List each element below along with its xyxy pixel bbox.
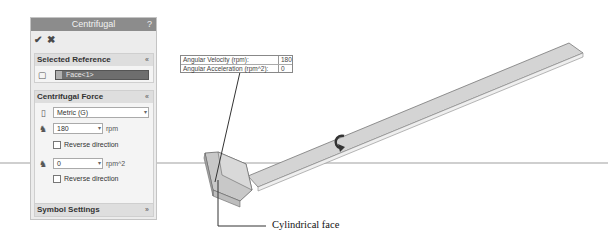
unit-system-select[interactable]: Metric (G) ▾ bbox=[53, 107, 149, 118]
centrifugal-force-header[interactable]: Centrifugal Force « bbox=[35, 91, 153, 103]
centrifugal-property-manager: Centrifugal ? ✔ ✖ Selected Reference « ▢… bbox=[30, 17, 157, 220]
expand-icon[interactable]: » bbox=[145, 204, 149, 216]
reverse-direction-label-2: Reverse direction bbox=[64, 174, 118, 183]
units-icon: ▯ bbox=[38, 108, 48, 118]
face-selection-field[interactable]: Face<1> bbox=[55, 70, 149, 80]
symbol-settings-header[interactable]: Symbol Settings » bbox=[35, 204, 153, 216]
symbol-settings-group: Symbol Settings » bbox=[34, 203, 154, 217]
cylindrical-face-caption: Cylindrical face bbox=[272, 219, 339, 230]
callout-label: Angular Acceleration (rpm^2): bbox=[181, 65, 279, 72]
unit-system-value: Metric (G) bbox=[57, 109, 88, 116]
angular-acceleration-input[interactable]: 0 ▾ bbox=[53, 158, 103, 169]
rotor-hub[interactable] bbox=[204, 152, 252, 207]
face-selection-value: Face<1> bbox=[66, 71, 94, 79]
x-icon[interactable]: ✖ bbox=[47, 34, 55, 46]
callout-row: Angular Acceleration (rpm^2): 0 bbox=[181, 64, 292, 72]
group-title: Selected Reference bbox=[37, 55, 111, 64]
selected-reference-group: Selected Reference « ▢ Face<1> bbox=[34, 53, 154, 83]
reverse-direction-label: Reverse direction bbox=[64, 140, 118, 149]
group-title: Centrifugal Force bbox=[37, 92, 103, 101]
angular-acceleration-unit: rpm^2 bbox=[106, 158, 125, 169]
callout-value: 180 bbox=[279, 56, 292, 64]
angular-acceleration-value: 0 bbox=[57, 160, 61, 167]
angular-velocity-icon: ♞ bbox=[38, 124, 48, 134]
panel-titlebar: Centrifugal ? bbox=[31, 18, 156, 31]
angular-velocity-value: 180 bbox=[57, 125, 69, 132]
callout-label: Angular Velocity (rpm): bbox=[181, 56, 279, 64]
group-title: Symbol Settings bbox=[37, 205, 100, 214]
selected-reference-header[interactable]: Selected Reference « bbox=[35, 54, 153, 66]
collapse-icon[interactable]: « bbox=[145, 91, 149, 103]
reverse-direction-checkbox[interactable] bbox=[53, 141, 61, 149]
callout-row: Angular Velocity (rpm): 180 bbox=[181, 56, 292, 64]
reverse-direction-checkbox-2[interactable] bbox=[53, 175, 61, 183]
panel-title: Centrifugal bbox=[72, 19, 116, 29]
value-callout: Angular Velocity (rpm): 180 Angular Acce… bbox=[180, 55, 293, 73]
help-button[interactable]: ? bbox=[147, 18, 152, 31]
chevron-down-icon: ▾ bbox=[144, 108, 147, 117]
angular-velocity-input[interactable]: 180 ▾ bbox=[53, 123, 103, 134]
chevron-down-icon[interactable]: ▾ bbox=[98, 159, 101, 168]
centrifugal-force-group: Centrifugal Force « ▯ Metric (G) ▾ ♞ 180… bbox=[34, 90, 154, 215]
angular-acceleration-icon: ♞ bbox=[38, 159, 48, 169]
collapse-icon[interactable]: « bbox=[145, 54, 149, 66]
angular-velocity-unit: rpm bbox=[106, 123, 118, 134]
cube-icon: ▢ bbox=[37, 70, 47, 80]
checkmark-icon[interactable]: ✔ bbox=[34, 34, 42, 46]
chevron-down-icon[interactable]: ▾ bbox=[98, 124, 101, 133]
rotor-arm[interactable] bbox=[248, 43, 583, 191]
callout-value: 0 bbox=[279, 65, 285, 72]
